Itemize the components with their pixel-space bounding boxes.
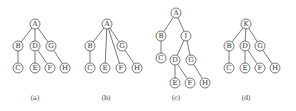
node-label: B <box>15 42 20 50</box>
tree-b: ABGCEFH(b) <box>85 19 142 102</box>
node-c: C <box>13 63 23 73</box>
edge-d-f <box>178 64 188 79</box>
node-label: E <box>172 79 177 87</box>
node-h: H <box>270 63 280 73</box>
tree-d: KBDGCEFH(d) <box>224 19 280 102</box>
edge-i-g <box>187 41 190 55</box>
node-k: K <box>241 19 251 29</box>
node-label: C <box>87 64 92 72</box>
tree-c: ABICDGEFH(c) <box>156 8 210 102</box>
edge-a-i <box>178 18 184 32</box>
node-d: D <box>240 41 250 51</box>
edge-a-e <box>105 29 107 63</box>
node-i: I <box>181 31 191 41</box>
node-label: H <box>202 79 208 87</box>
edge-g-h <box>194 64 203 78</box>
node-label: G <box>257 42 263 50</box>
tree-caption: (b) <box>101 94 111 102</box>
edge-g-h <box>54 50 63 64</box>
node-c: C <box>85 63 95 73</box>
node-label: B <box>226 42 231 50</box>
node-h: H <box>132 63 142 73</box>
node-b: B <box>13 41 23 51</box>
edge-g-h <box>263 50 272 64</box>
node-e: E <box>100 63 110 73</box>
node-label: H <box>62 64 68 72</box>
node-c: C <box>156 53 166 63</box>
tree-a: ABDGCEFH(a) <box>13 19 70 102</box>
node-label: F <box>48 64 53 72</box>
node-g: G <box>46 41 56 51</box>
node-label: G <box>119 42 125 50</box>
node-a: A <box>30 19 40 29</box>
node-label: C <box>158 54 163 62</box>
node-c: C <box>224 63 234 73</box>
node-e: E <box>240 63 250 73</box>
node-b: B <box>156 31 166 41</box>
node-f: F <box>255 63 265 73</box>
node-label: B <box>158 32 163 40</box>
tree-caption: (a) <box>31 94 40 102</box>
node-e: E <box>30 63 40 73</box>
node-label: H <box>134 64 140 72</box>
node-label: E <box>242 64 247 72</box>
tree-figure: ABDGCEFH(a)ABGCEFH(b)ABICDGEFH(c)KBDGCEF… <box>0 0 296 111</box>
edge-a-g <box>110 28 119 42</box>
edge-a-g <box>38 28 48 42</box>
node-g: G <box>255 41 265 51</box>
node-label: F <box>258 64 263 72</box>
node-label: E <box>32 64 37 72</box>
node-f: F <box>116 63 126 73</box>
node-d: D <box>30 41 40 51</box>
node-b: B <box>224 41 234 51</box>
node-g: G <box>117 41 127 51</box>
node-label: F <box>188 79 193 87</box>
node-label: A <box>31 20 38 28</box>
node-d: D <box>170 55 180 65</box>
node-label: F <box>119 64 124 72</box>
node-label: C <box>15 64 20 72</box>
node-label: D <box>32 42 38 50</box>
node-label: B <box>87 42 92 50</box>
node-label: G <box>188 56 194 64</box>
node-label: A <box>172 9 179 17</box>
edge-k-g <box>249 28 258 42</box>
node-label: K <box>243 20 249 28</box>
node-h: H <box>60 63 70 73</box>
node-a: A <box>171 8 181 18</box>
tree-caption: (c) <box>172 94 181 102</box>
node-h: H <box>200 78 210 88</box>
node-label: C <box>226 64 231 72</box>
node-label: D <box>172 56 178 64</box>
node-a: A <box>102 19 112 29</box>
edge-k-d <box>245 29 246 41</box>
node-f: F <box>45 63 55 73</box>
node-f: F <box>185 78 195 88</box>
edge-d-f <box>38 50 47 64</box>
node-label: A <box>103 20 110 28</box>
node-g: G <box>186 55 196 65</box>
edge-d-f <box>248 50 257 64</box>
node-label: E <box>102 64 107 72</box>
edge-g-h <box>125 50 134 64</box>
node-b: B <box>85 41 95 51</box>
node-label: D <box>242 42 248 50</box>
edge-a-b <box>164 17 174 32</box>
edge-a-b <box>21 28 32 42</box>
node-e: E <box>170 78 180 88</box>
node-label: H <box>272 64 278 72</box>
node-label: G <box>48 42 54 50</box>
edge-i-d <box>177 41 184 56</box>
node-label: I <box>185 32 188 40</box>
tree-caption: (d) <box>241 94 251 102</box>
edge-a-b <box>93 28 104 42</box>
edge-k-b <box>232 28 243 42</box>
